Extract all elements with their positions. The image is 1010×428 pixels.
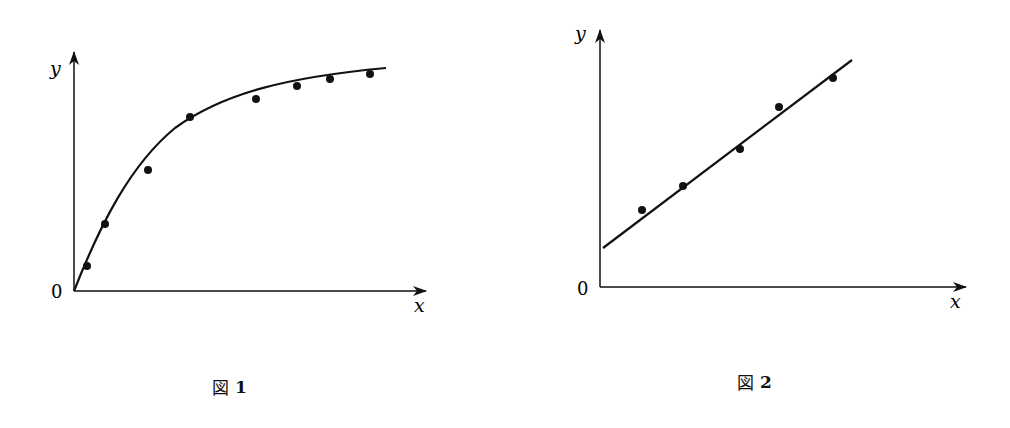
- fig1-origin-label: 0: [51, 281, 62, 302]
- fig1-caption-number: 1: [235, 377, 247, 397]
- figures-canvas: y x 0 y x 0: [0, 0, 1010, 428]
- figure-1: y x 0: [49, 52, 426, 316]
- fig2-caption-number: 2: [760, 372, 772, 392]
- fig2-y-label: y: [574, 22, 586, 44]
- fig2-fit-line: [603, 60, 852, 248]
- fig2-x-label: x: [950, 290, 961, 312]
- figure-1-caption: 図 1: [212, 374, 247, 399]
- fig1-caption-prefix: 図: [212, 374, 229, 399]
- fig1-x-label: x: [414, 294, 425, 316]
- figure-2-caption: 図 2: [737, 369, 772, 394]
- figure-2: y x 0: [574, 22, 966, 312]
- fig1-fit-curve: [74, 68, 386, 291]
- fig2-caption-prefix: 図: [737, 369, 754, 394]
- fig1-y-label: y: [49, 57, 61, 79]
- fig2-origin-label: 0: [577, 278, 588, 299]
